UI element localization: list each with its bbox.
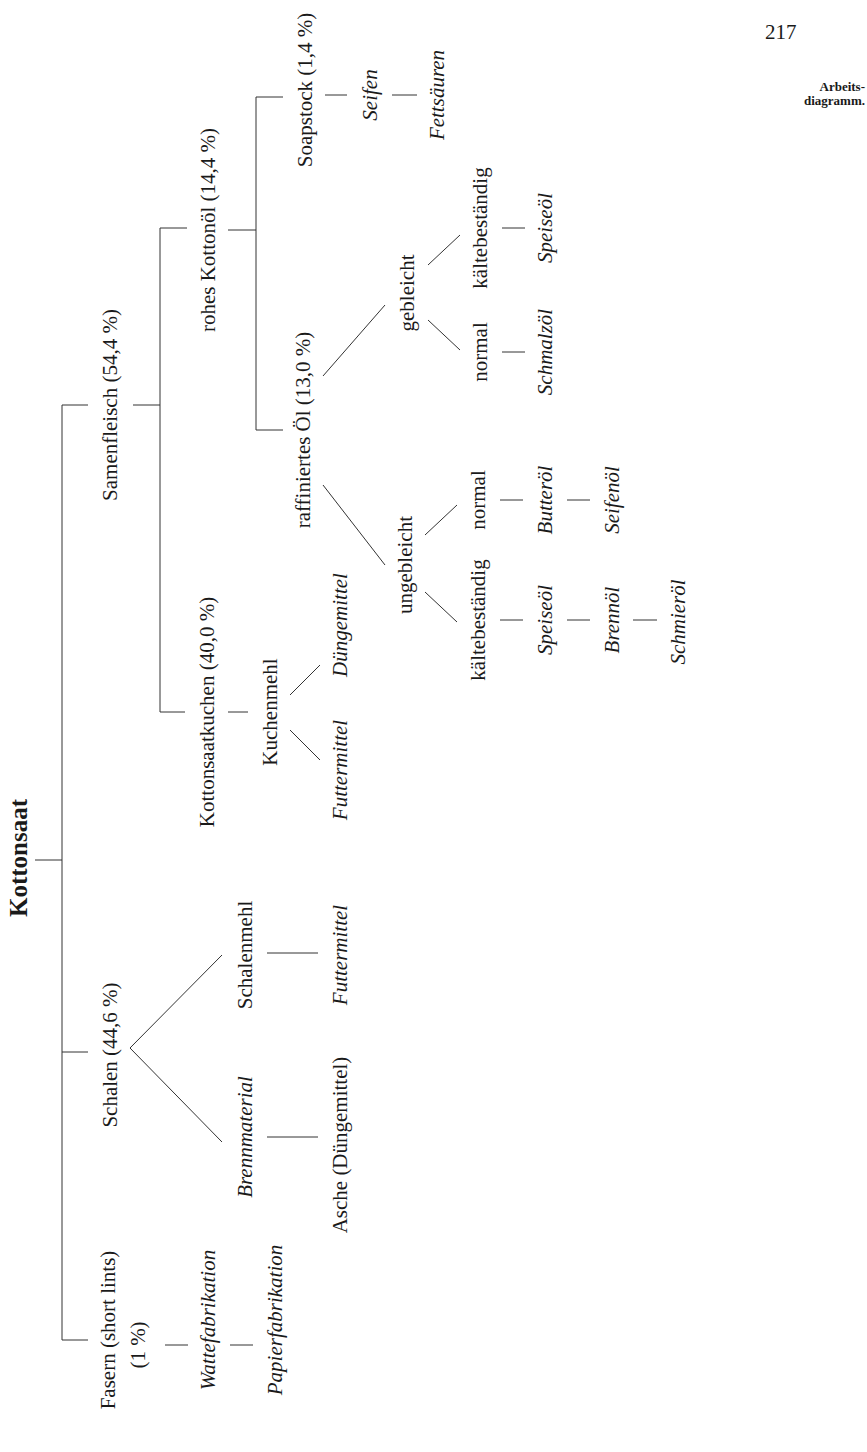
node-fasern-percent: (1 %) [128, 1321, 149, 1368]
node-seifen: Seifen [360, 69, 381, 120]
node-gebleicht-kaeltebestaendig: kältebeständig [470, 167, 491, 288]
root-node: Kottonsaat [6, 799, 31, 917]
node-papierfabrikation: Papierfabrikation [265, 1245, 286, 1396]
connector [428, 320, 460, 350]
connector [130, 1048, 222, 1142]
node-fettsaeuren: Fettsäuren [427, 50, 448, 140]
node-kuchen-duengemittel: Düngemittel [330, 573, 351, 677]
connector [425, 505, 457, 535]
node-schmalzoel: Schmalzöl [535, 309, 556, 395]
connector [323, 485, 385, 565]
connector [290, 730, 320, 760]
connector [428, 235, 460, 265]
node-samenfleisch: Samenfleisch (54,4 %) [100, 309, 121, 501]
connector [130, 955, 222, 1048]
node-schalen: Schalen (44,6 %) [100, 982, 121, 1127]
node-fasern: Fasern (short lints) [98, 1251, 119, 1410]
node-soapstock: Soapstock (1,4 %) [295, 13, 316, 168]
connector [290, 665, 320, 695]
node-rohes-kottonoel: rohes Kottonöl (14,4 %) [198, 128, 219, 332]
node-wattefabrikation: Wattefabrikation [198, 1250, 219, 1390]
connector-lines [0, 0, 867, 1452]
node-schmieroel: Schmieröl [668, 579, 689, 664]
node-seifenoel: Seifenöl [602, 466, 623, 534]
node-butteroel: Butteröl [535, 466, 556, 535]
node-gebleicht-speiseoel: Speiseöl [535, 193, 556, 263]
node-ungebleicht-speiseoel: Speiseöl [535, 585, 556, 655]
node-kottonsaatkuchen: Kottonsaatkuchen (40,0 %) [197, 597, 218, 827]
node-kuchen-futtermittel: Futtermittel [330, 720, 351, 820]
node-gebleicht: gebleicht [397, 255, 418, 332]
node-asche: Asche (Düngemittel) [330, 1057, 351, 1234]
node-ungebleicht: ungebleicht [395, 516, 416, 614]
node-brennmaterial: Brennmaterial [235, 1076, 256, 1198]
connector [323, 305, 385, 376]
node-ungebleicht-normal: normal [468, 470, 489, 529]
node-kuchenmehl: Kuchenmehl [260, 658, 281, 765]
node-schalenmehl: Schalenmehl [235, 901, 256, 1009]
node-gebleicht-normal: normal [470, 322, 491, 381]
node-raffiniertes-oel: raffiniertes Öl (13,0 %) [293, 332, 314, 529]
node-brennoel: Brennöl [602, 587, 623, 654]
node-ungebleicht-kaeltebestaendig: kältebeständig [468, 559, 489, 680]
connector [425, 592, 457, 622]
node-schalen-futtermittel: Futtermittel [330, 905, 351, 1005]
